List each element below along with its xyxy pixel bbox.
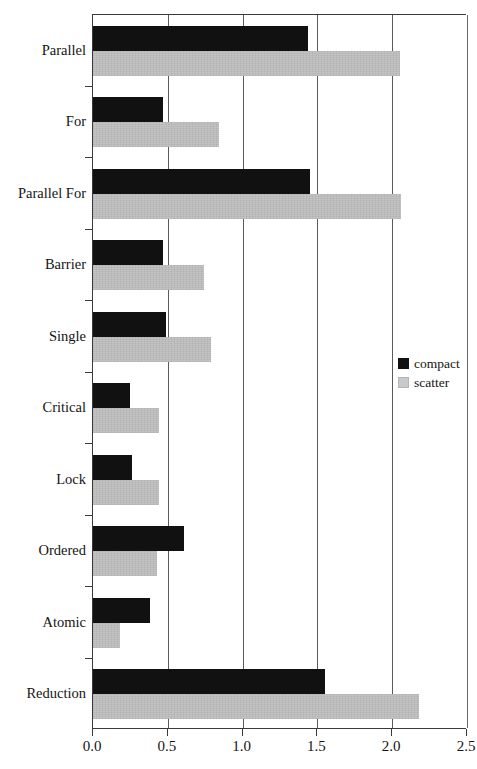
x-axis-tick-1.0	[242, 729, 243, 736]
bar-compact-barrier	[93, 240, 163, 265]
bar-scatter-parallel	[93, 51, 400, 76]
x-axis-tick-label-2.0: 2.0	[361, 739, 421, 754]
y-axis-label-critical: Critical	[0, 400, 86, 415]
bar-compact-critical	[93, 383, 130, 408]
y-axis-tick-7	[85, 515, 92, 516]
x-axis-tick-1.5	[316, 729, 317, 736]
y-axis-tick-3	[85, 229, 92, 230]
y-axis-label-lock: Lock	[0, 472, 86, 487]
y-axis-label-barrier: Barrier	[0, 257, 86, 272]
x-axis-tick-0.5	[167, 729, 168, 736]
bar-scatter-parallel-for	[93, 194, 401, 219]
bar-compact-parallel-for	[93, 169, 310, 194]
x-axis-tick-label-1.0: 1.0	[212, 739, 272, 754]
black-square-icon	[398, 358, 409, 369]
gridline-2.0	[392, 15, 393, 728]
y-axis-tick-9	[85, 658, 92, 659]
x-axis-tick-label-2.5: 2.5	[436, 739, 477, 754]
y-axis-label-single: Single	[0, 329, 86, 344]
gridline-1.5	[317, 15, 318, 728]
bar-compact-ordered	[93, 526, 184, 551]
legend-item-compact: compact	[398, 357, 460, 371]
bar-compact-parallel	[93, 26, 308, 51]
bar-scatter-atomic	[93, 623, 120, 648]
bar-scatter-ordered	[93, 551, 157, 576]
y-axis-label-ordered: Ordered	[0, 543, 86, 558]
bar-scatter-reduction	[93, 694, 419, 719]
y-axis-tick-2	[85, 157, 92, 158]
legend-item-scatter: scatter	[398, 376, 460, 390]
chart-legend: compactscatter	[398, 357, 460, 394]
y-axis-tick-1	[85, 86, 92, 87]
bar-scatter-for	[93, 122, 219, 147]
gray-square-icon	[398, 377, 409, 388]
y-axis-label-parallel-for: Parallel For	[0, 186, 86, 201]
bar-scatter-single	[93, 337, 211, 362]
gridline-1.0	[243, 15, 244, 728]
bar-scatter-barrier	[93, 265, 204, 290]
bar-chart: ParallelForParallel ForBarrierSingleCrit…	[0, 0, 477, 769]
x-axis-tick-2.5	[466, 729, 467, 736]
x-axis-tick-label-1.5: 1.5	[286, 739, 346, 754]
legend-label-scatter: scatter	[414, 376, 449, 390]
y-axis-label-reduction: Reduction	[0, 686, 86, 701]
x-axis-tick-0.0	[92, 729, 93, 736]
y-axis-tick-6	[85, 443, 92, 444]
y-axis-label-for: For	[0, 114, 86, 129]
bar-scatter-critical	[93, 408, 159, 433]
bar-compact-reduction	[93, 669, 325, 694]
y-axis-tick-4	[85, 300, 92, 301]
bar-compact-single	[93, 312, 166, 337]
bar-compact-atomic	[93, 598, 150, 623]
bar-compact-lock	[93, 455, 132, 480]
legend-label-compact: compact	[414, 357, 460, 371]
bar-scatter-lock	[93, 480, 159, 505]
y-axis-label-parallel: Parallel	[0, 43, 86, 58]
y-axis-label-atomic: Atomic	[0, 615, 86, 630]
bar-compact-for	[93, 97, 163, 122]
x-axis-tick-2.0	[391, 729, 392, 736]
y-axis-tick-8	[85, 586, 92, 587]
x-axis-tick-label-0.5: 0.5	[137, 739, 197, 754]
y-axis-tick-5	[85, 372, 92, 373]
gridline-2.5	[467, 15, 468, 728]
x-axis-tick-label-0.0: 0.0	[62, 739, 122, 754]
